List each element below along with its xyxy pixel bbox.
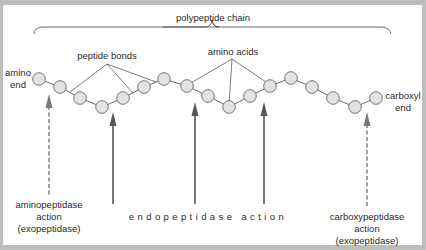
amino-acid-bead: [138, 81, 151, 94]
amino-acid-bead: [306, 81, 319, 94]
carboxypeptidase-label-1: carboxypeptidase: [325, 211, 409, 223]
endopeptidase-arrow: [192, 102, 199, 204]
amino-acid-chain: [33, 72, 383, 114]
amino-acid-bead: [370, 92, 383, 105]
endopeptidase-arrow: [110, 112, 117, 204]
amino-end-label-2: end: [3, 79, 33, 91]
carboxypeptidase-label-3: (exopeptidase): [325, 235, 409, 247]
aminopeptidase-label-3: (exopeptidase): [12, 223, 86, 235]
amino-acid-bead: [117, 92, 130, 105]
amino-acid-bead: [33, 73, 46, 86]
amino-acid-bead: [327, 92, 340, 105]
carboxypeptidase-label-2: action: [325, 223, 409, 235]
amino-acid-bead: [285, 72, 298, 85]
amino-acid-bead: [349, 101, 362, 114]
amino-acid-bead: [96, 101, 109, 114]
enzyme-arrows: [46, 94, 371, 207]
amino-acid-bead: [54, 81, 67, 94]
carboxyl-end-label-2: end: [382, 102, 424, 114]
aminopeptidase-label-2: action: [12, 211, 86, 223]
aminopeptidase-label-1: aminopeptidase: [12, 199, 86, 211]
endopeptidase-label: endopeptidase action: [118, 211, 298, 223]
amino-acid-bead: [74, 92, 87, 105]
polypeptide-chain-title: polypeptide chain: [120, 12, 306, 24]
carboxyl-end-label-1: carboxyl: [382, 90, 424, 102]
amino-acid-bead: [158, 73, 171, 86]
amino-acids-label: amino acids: [200, 46, 266, 58]
amino-acid-bead: [264, 80, 277, 93]
carboxypeptidase-arrow: [364, 112, 371, 207]
peptide-bonds-label: peptide bonds: [70, 50, 144, 62]
amino-acid-bead: [244, 90, 257, 103]
amino-acid-bead: [181, 80, 194, 93]
amino-acid-bead: [223, 101, 236, 114]
amino-end-label-1: amino: [3, 67, 33, 79]
aminopeptidase-arrow: [46, 94, 53, 195]
endopeptidase-arrow: [261, 102, 268, 204]
amino-acid-bead: [202, 90, 215, 103]
amino-acids-pointers: [189, 59, 269, 105]
